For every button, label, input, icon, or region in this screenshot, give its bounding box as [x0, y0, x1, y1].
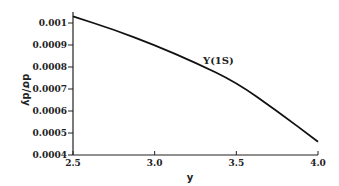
y-tick-label: 0.001	[39, 18, 67, 28]
y-tick-label: 0.0004	[33, 150, 67, 160]
series-line	[73, 16, 318, 141]
chart: 0.00040.00050.00060.00070.00080.00090.00…	[0, 0, 339, 186]
series-label: Y(1S)	[202, 55, 234, 66]
y-ticks: 0.00040.00050.00060.00070.00080.00090.00…	[33, 18, 73, 160]
x-axis-label: y	[187, 172, 194, 183]
y-tick-label: 0.0009	[33, 40, 67, 50]
x-tick-label: 4.0	[310, 158, 326, 168]
x-tick-label: 2.5	[65, 158, 81, 168]
y-tick-label: 0.0008	[33, 62, 67, 72]
y-tick-label: 0.0006	[33, 106, 67, 116]
x-tick-label: 3.5	[228, 158, 244, 168]
y-tick-label: 0.0005	[33, 128, 67, 138]
x-ticks: 2.53.03.54.0	[65, 151, 326, 168]
y-tick-label: 0.0007	[33, 84, 67, 94]
y-axis-label: dσ/dy	[21, 74, 32, 107]
x-tick-label: 3.0	[147, 158, 163, 168]
